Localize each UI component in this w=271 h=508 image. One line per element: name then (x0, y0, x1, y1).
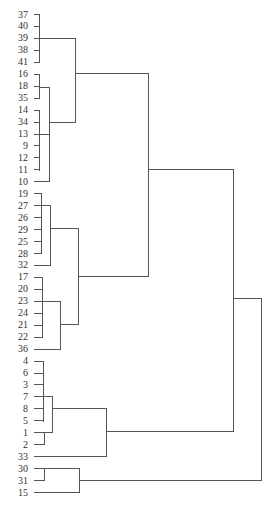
leaf-label: 28 (18, 248, 28, 259)
leaf-label: 27 (18, 200, 28, 211)
leaf-label: 41 (18, 56, 28, 67)
leaf-label: 16 (18, 68, 28, 79)
leaf-label: 11 (18, 164, 28, 175)
leaf-label: 4 (23, 355, 28, 366)
leaf-label: 6 (23, 367, 28, 378)
leaf-label: 32 (18, 259, 28, 270)
leaf-label: 8 (23, 403, 28, 414)
leaf-label: 19 (18, 188, 28, 199)
leaf-label: 1 (23, 427, 28, 438)
leaf-label: 23 (18, 295, 28, 306)
leaf-label: 20 (18, 283, 28, 294)
dendrogram-links (34, 15, 262, 493)
leaf-label: 31 (18, 475, 28, 486)
leaf-label: 2 (23, 439, 28, 450)
leaf-label: 13 (18, 128, 28, 139)
leaf-label: 26 (18, 212, 28, 223)
leaf-label: 30 (18, 463, 28, 474)
leaf-label: 10 (18, 176, 28, 187)
leaf-label: 40 (18, 20, 28, 31)
leaf-label: 17 (18, 271, 28, 282)
dendrogram: 3740393841161835143413912111019272629252… (0, 0, 271, 508)
leaf-label: 5 (23, 415, 28, 426)
leaf-label: 3 (23, 379, 28, 390)
leaf-labels: 3740393841161835143413912111019272629252… (18, 9, 28, 498)
leaf-label: 12 (18, 152, 28, 163)
leaf-label: 14 (18, 104, 28, 115)
leaf-label: 25 (18, 236, 28, 247)
leaf-label: 29 (18, 224, 28, 235)
leaf-label: 37 (18, 9, 28, 20)
leaf-label: 22 (18, 331, 28, 342)
leaf-label: 39 (18, 32, 28, 43)
leaf-label: 21 (18, 319, 28, 330)
leaf-label: 33 (18, 451, 28, 462)
leaf-label: 24 (18, 307, 28, 318)
leaf-label: 34 (18, 116, 28, 127)
leaf-label: 35 (18, 92, 28, 103)
leaf-label: 15 (18, 487, 28, 498)
leaf-label: 7 (23, 391, 28, 402)
leaf-label: 36 (18, 343, 28, 354)
leaf-label: 9 (23, 140, 28, 151)
leaf-label: 18 (18, 80, 28, 91)
leaf-label: 38 (18, 44, 28, 55)
